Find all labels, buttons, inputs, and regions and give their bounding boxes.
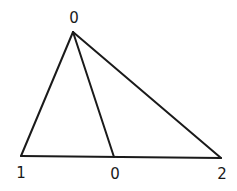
edge-base [21, 156, 221, 158]
label-apex: 0 [69, 9, 79, 27]
edge-apex-bottom-right [73, 32, 221, 158]
edge-apex-bottom-left [21, 32, 73, 156]
label-bottom-right: 2 [217, 165, 227, 183]
label-bottom-mid: 0 [110, 165, 120, 183]
triangle-diagram: 0 1 0 2 [0, 0, 237, 191]
label-bottom-left: 1 [16, 164, 26, 182]
